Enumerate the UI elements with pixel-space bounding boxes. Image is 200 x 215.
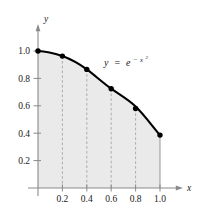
x-tick-label-0-4: 0.4 <box>81 194 93 204</box>
y-tick-label-0-8: 0.8 <box>18 74 30 84</box>
data-point <box>109 86 114 91</box>
figure-container: 1.0 0.8 0.6 0.4 0.2 0.2 0.4 0.6 0.8 1.0 … <box>0 0 200 215</box>
equation-equals: = <box>114 57 120 68</box>
data-point <box>84 67 89 72</box>
data-point <box>35 48 40 53</box>
y-axis-arrow-icon <box>36 24 41 31</box>
x-tick-label-0-2: 0.2 <box>56 194 68 204</box>
y-tick-label-1-0: 1.0 <box>18 46 30 56</box>
x-axis-arrow-icon <box>176 186 183 191</box>
equation-exponent-sign: − <box>133 56 137 63</box>
x-tick-label-0-6: 0.6 <box>105 194 117 204</box>
equation-base: e <box>126 57 131 68</box>
equation-exponent-var: x <box>139 56 143 63</box>
equation-lhs: y <box>103 57 109 68</box>
data-point <box>157 132 162 137</box>
plot-svg: 1.0 0.8 0.6 0.4 0.2 0.2 0.4 0.6 0.8 1.0 … <box>0 0 200 215</box>
y-tick-label-0-6: 0.6 <box>18 101 30 111</box>
y-tick-label-0-2: 0.2 <box>18 156 30 166</box>
x-axis-label: x <box>186 183 192 193</box>
y-tick-label-0-4: 0.4 <box>18 129 30 139</box>
data-point <box>133 106 138 111</box>
data-point <box>60 53 65 58</box>
y-axis-label: y <box>43 14 49 24</box>
x-tick-label-0-8: 0.8 <box>130 194 142 204</box>
x-tick-label-1-0: 1.0 <box>154 194 166 204</box>
